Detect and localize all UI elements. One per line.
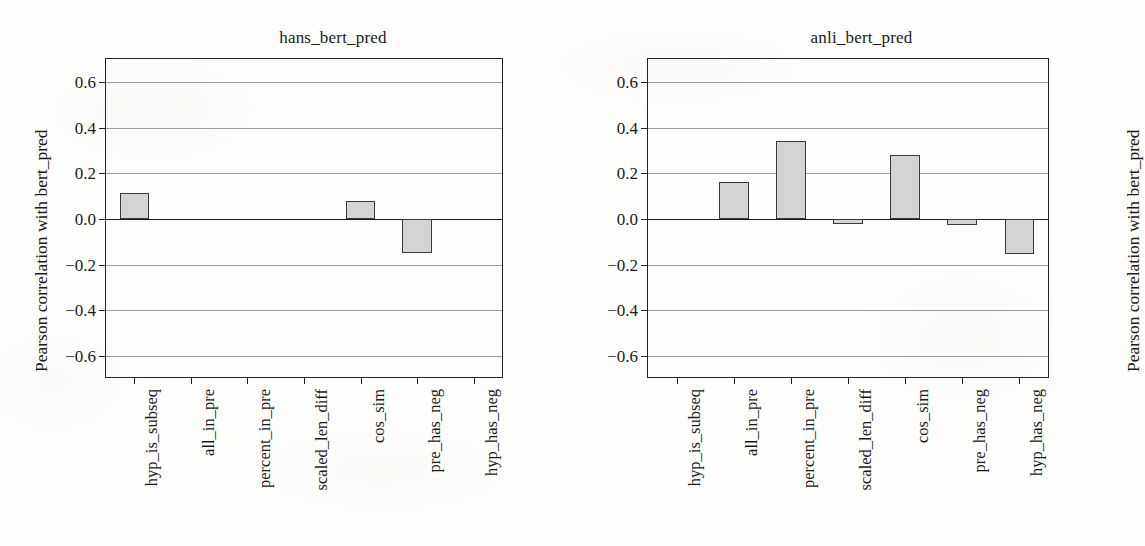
y-axis-tick [641,219,648,220]
x-axis-tick-label: hyp_is_subseq [685,389,705,486]
x-axis-tick [191,377,192,384]
y-axis-tick [99,128,106,129]
x-axis-tick-label: percent_in_pre [255,389,275,488]
plot-area-left: 0.60.40.20.0−0.2−0.4−0.6hyp_is_subseqall… [105,58,503,378]
y-axis-label-left: Pearson correlation with bert_pred [31,130,52,373]
plot-area-right: 0.60.40.20.0−0.2−0.4−0.6hyp_is_subseqall… [647,58,1049,378]
x-axis-tick-label: pre_has_neg [970,389,990,472]
x-axis-tick [677,377,678,384]
x-axis-tick [905,377,906,384]
x-axis-tick-label: pre_has_neg [425,389,445,472]
x-axis-tick [734,377,735,384]
x-axis-tick [134,377,135,384]
x-axis-tick [962,377,963,384]
gridline [648,173,1048,174]
y-axis-tick [99,265,106,266]
y-axis-label-right: Pearson correlation with bert_pred [1123,130,1144,373]
chart-panel-hans: hans_bert_pred Pearson correlation with … [0,0,546,546]
x-axis-tick-label: hyp_has_neg [482,389,502,476]
bar [947,219,977,225]
x-axis-tick-label: percent_in_pre [799,389,819,488]
gridline [106,173,502,174]
y-axis-tick [99,82,106,83]
bar [719,182,749,219]
y-axis-tick-label: 0.0 [75,211,96,228]
gridline [648,310,1048,311]
x-axis-tick-label: cos_sim [913,389,933,443]
gridline [648,128,1048,129]
y-axis-tick-label: −0.4 [607,302,638,319]
x-axis-tick-label: all_in_pre [199,389,219,456]
y-axis-tick [99,310,106,311]
gridline [648,356,1048,357]
y-axis-tick-label: −0.2 [65,256,96,273]
y-axis-tick-label: 0.0 [617,211,638,228]
y-axis-tick [99,173,106,174]
gridline [106,82,502,83]
y-axis-tick [641,173,648,174]
x-axis-tick-label: all_in_pre [742,389,762,456]
bar [890,155,920,219]
y-axis-tick-label: 0.2 [617,165,638,182]
y-axis-tick-label: −0.2 [607,256,638,273]
x-axis-tick [848,377,849,384]
y-axis-tick-label: 0.4 [75,119,96,136]
bar [833,219,863,224]
chart-panel-anli: anli_bert_pred Pearson correlation with … [546,0,1093,546]
x-axis-tick [474,377,475,384]
y-axis-tick [641,82,648,83]
x-axis-tick [1019,377,1020,384]
x-axis-tick [304,377,305,384]
y-axis-tick-label: −0.6 [65,348,96,365]
y-axis-tick [99,356,106,357]
y-axis-tick [641,310,648,311]
gridline [106,265,502,266]
zero-baseline [106,219,502,220]
y-axis-tick [99,219,106,220]
y-axis-tick-label: 0.2 [75,165,96,182]
gridline [648,265,1048,266]
y-axis-tick-label: 0.6 [617,73,638,90]
gridline [106,310,502,311]
x-axis-tick-label: hyp_is_subseq [142,389,162,486]
x-axis-tick-label: scaled_len_diff [312,389,332,490]
x-axis-tick [247,377,248,384]
y-axis-tick-label: −0.6 [607,348,638,365]
bar [402,219,431,253]
y-axis-tick [641,356,648,357]
panel-title-left: hans_bert_pred [0,28,606,48]
gridline [648,82,1048,83]
x-axis-tick-label: scaled_len_diff [856,389,876,490]
y-axis-tick [641,128,648,129]
x-axis-tick [417,377,418,384]
bar [120,193,149,219]
y-axis-tick [641,265,648,266]
bar [346,201,375,219]
bar [776,141,806,219]
x-axis-tick-label: hyp_has_neg [1027,389,1047,476]
x-axis-tick-label: cos_sim [369,389,389,443]
gridline [106,356,502,357]
x-axis-tick [361,377,362,384]
y-axis-tick-label: 0.6 [75,73,96,90]
x-axis-tick [791,377,792,384]
bar [1005,219,1035,254]
y-axis-tick-label: 0.4 [617,119,638,136]
gridline [106,128,502,129]
y-axis-tick-label: −0.4 [65,302,96,319]
panel-title-right: anli_bert_pred [546,28,1145,48]
